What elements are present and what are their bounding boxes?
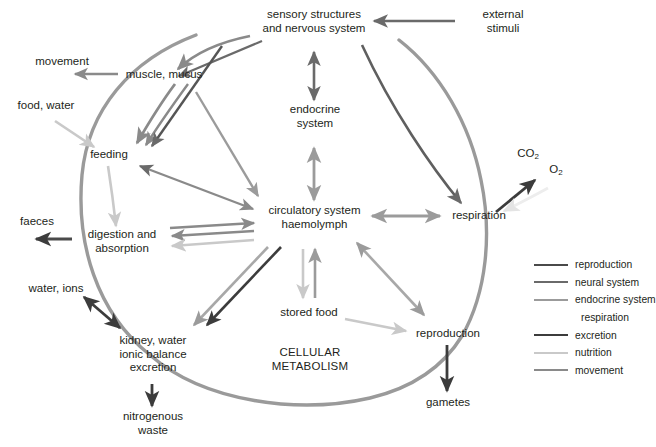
cellular-metabolism-line1: CELLULAR xyxy=(255,346,365,360)
node-o2-label: O xyxy=(549,163,558,175)
edge-circulatory-to-digestion-endocrine xyxy=(172,231,254,236)
node-o2: O2 xyxy=(543,163,569,177)
node-water-ions-label: water, ions xyxy=(18,282,94,296)
node-kidney-excretion: kidney, water ionic balance excretion xyxy=(103,334,203,375)
node-endocrine-line2: system xyxy=(279,117,351,131)
node-external-stimuli-line1: external xyxy=(463,8,543,22)
edge-food-water-to-feeding xyxy=(55,121,94,147)
node-food-water: food, water xyxy=(5,99,87,113)
legend-label-respiration: respiration xyxy=(575,312,629,323)
node-sensory-nervous-system: sensory structures and nervous system xyxy=(249,8,379,35)
node-digestion-absorption: digestion and absorption xyxy=(73,228,171,255)
node-external-stimuli: external stimuli xyxy=(463,8,543,35)
edge-circulatory-to-kidney-excretion xyxy=(207,247,281,325)
node-water-ions: water, ions xyxy=(18,282,94,296)
legend-label-nutrition: nutrition xyxy=(575,347,612,358)
node-muscle-mucus-label: muscle, mucus xyxy=(118,68,210,82)
node-circulatory-line2: haemolymph xyxy=(251,218,378,232)
node-stored-food: stored food xyxy=(271,306,347,320)
legend-label-neural-system: neural system xyxy=(575,277,639,288)
legend-item-neural-system: neural system xyxy=(534,274,649,292)
legend-item-nutrition: nutrition xyxy=(534,344,649,362)
node-nitrogenous-line1: nitrogenous xyxy=(106,410,200,424)
legend-swatch-neural-system xyxy=(534,281,568,283)
legend: reproduction neural system endocrine sys… xyxy=(534,256,649,379)
node-co2-subscript: 2 xyxy=(534,152,538,161)
edge-kidney-water-ions xyxy=(84,297,120,328)
legend-item-excretion: excretion xyxy=(534,326,649,344)
edge-feeding-to-digestion xyxy=(108,166,116,226)
node-reproduction: reproduction xyxy=(408,327,488,341)
edge-sensory-to-muscle-movement xyxy=(178,36,250,69)
node-o2-subscript: 2 xyxy=(558,168,562,177)
legend-swatch-reproduction xyxy=(534,264,568,266)
legend-item-reproduction: reproduction xyxy=(534,256,649,274)
edge-circulatory-to-kidney-endocrine xyxy=(194,247,268,325)
node-kidney-line2: ionic balance xyxy=(103,348,203,362)
legend-swatch-nutrition xyxy=(534,352,568,354)
legend-label-endocrine-system: endocrine system xyxy=(575,294,656,305)
edge-sensory-to-circulatory-endocrine xyxy=(196,92,258,196)
node-sensory-line2: and nervous system xyxy=(249,22,379,36)
edge-circulatory-to-digestion-nutrition xyxy=(172,240,254,246)
node-feeding-label: feeding xyxy=(83,148,135,162)
legend-label-movement: movement xyxy=(575,365,623,376)
legend-swatch-excretion xyxy=(534,334,568,336)
node-respiration-label: respiration xyxy=(442,209,516,223)
edge-stored-food-to-reproduction xyxy=(345,319,406,331)
node-kidney-line1: kidney, water xyxy=(103,334,203,348)
cellular-metabolism-line2: METABOLISM xyxy=(255,360,365,374)
node-digestion-line2: absorption xyxy=(73,242,171,256)
edge-circulatory-reproduction xyxy=(357,243,424,315)
metabolism-circle-arc-left xyxy=(81,35,196,355)
node-movement-label: movement xyxy=(22,55,102,69)
node-nitrogenous-line2: waste xyxy=(106,424,200,438)
node-food-water-label: food, water xyxy=(5,99,87,113)
node-nitrogenous-waste: nitrogenous waste xyxy=(106,410,200,437)
legend-item-endocrine-system: endocrine system xyxy=(534,291,649,309)
edge-respiration-to-co2 xyxy=(496,180,535,212)
node-circulatory-line1: circulatory system xyxy=(251,204,378,218)
edge-digestion-to-circulatory xyxy=(170,223,254,228)
node-muscle-mucus: muscle, mucus xyxy=(118,68,210,82)
node-stored-food-label: stored food xyxy=(271,306,347,320)
node-circulatory-system: circulatory system haemolymph xyxy=(251,204,378,231)
legend-swatch-endocrine-system xyxy=(534,299,568,301)
edge-muscle-to-feeding-movement xyxy=(137,84,175,143)
node-external-stimuli-line2: stimuli xyxy=(463,22,543,36)
node-gametes: gametes xyxy=(420,396,476,410)
edge-sensory-to-respiration-neural xyxy=(362,45,461,203)
legend-swatch-movement xyxy=(534,369,568,371)
node-co2-label: CO xyxy=(517,147,534,159)
edge-feeding-circulatory xyxy=(140,166,253,209)
node-endocrine-system: endocrine system xyxy=(279,103,351,130)
node-kidney-line3: excretion xyxy=(103,361,203,375)
node-faeces: faeces xyxy=(12,215,62,229)
legend-swatch-respiration xyxy=(534,317,568,319)
node-endocrine-line1: endocrine xyxy=(279,103,351,117)
node-cellular-metabolism: CELLULAR METABOLISM xyxy=(255,346,365,373)
node-feeding: feeding xyxy=(83,148,135,162)
node-sensory-line1: sensory structures xyxy=(249,8,379,22)
node-faeces-label: faeces xyxy=(12,215,62,229)
legend-label-reproduction: reproduction xyxy=(575,259,632,270)
node-gametes-label: gametes xyxy=(420,396,476,410)
legend-label-excretion: excretion xyxy=(575,330,617,341)
node-respiration: respiration xyxy=(442,209,516,223)
node-co2: CO2 xyxy=(513,147,543,161)
node-reproduction-label: reproduction xyxy=(408,327,488,341)
legend-item-movement: movement xyxy=(534,362,649,380)
metabolism-circle-arc-right xyxy=(399,40,487,336)
legend-item-respiration: respiration xyxy=(534,309,649,327)
node-movement: movement xyxy=(22,55,102,69)
node-digestion-line1: digestion and xyxy=(73,228,171,242)
